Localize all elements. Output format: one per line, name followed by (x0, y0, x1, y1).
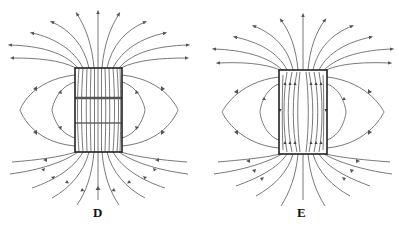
panel-label-e: E (297, 205, 306, 221)
bottom-field-lines (214, 154, 392, 206)
interior-arrows (278, 82, 327, 144)
panel-e (214, 15, 392, 206)
side-loops (20, 75, 178, 146)
panel-label-d: D (93, 205, 102, 221)
top-field-lines (214, 15, 392, 70)
side-loops (222, 77, 384, 148)
field-diagram (0, 0, 399, 230)
interior-field-lines (75, 68, 122, 152)
bottom-field-lines (10, 152, 188, 205)
interior-field-lines (278, 72, 327, 152)
panel-d (10, 12, 188, 205)
magnet-box-e (279, 70, 327, 154)
top-field-lines (10, 12, 188, 68)
